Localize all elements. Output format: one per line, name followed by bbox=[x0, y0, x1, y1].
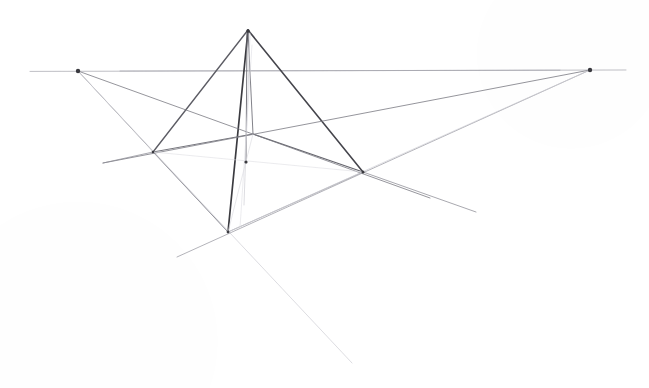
paper-background bbox=[0, 0, 649, 388]
vertex-mark-apex bbox=[246, 29, 250, 33]
vertex-mark-right-base bbox=[362, 171, 365, 174]
drawing-canvas bbox=[0, 0, 649, 388]
vertex-mark-left-base bbox=[152, 151, 155, 154]
vertex-mark-axis-foot bbox=[244, 160, 247, 163]
vertex-mark-front-base bbox=[227, 231, 230, 234]
perspective-drawing bbox=[0, 0, 649, 388]
vertex-mark-left-vp bbox=[76, 69, 80, 73]
vertex-mark-right-vp bbox=[588, 68, 592, 72]
